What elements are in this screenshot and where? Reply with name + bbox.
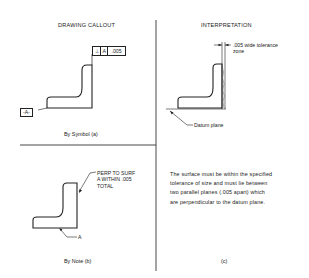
description-line-1: The surface must be within the specified bbox=[170, 170, 272, 179]
drawing-callout-title: DRAWING CALLOUT bbox=[58, 22, 115, 28]
note-line-3: TOTAL bbox=[97, 183, 135, 189]
interpretation-title: INTERPRETATION bbox=[201, 22, 252, 28]
description-line-4: are perpendicular to the datum plane. bbox=[170, 198, 272, 207]
part-outline-b bbox=[33, 183, 77, 228]
interpretation-description: The surface must be within the specified… bbox=[170, 170, 272, 207]
datum-plane-label: Datum plane bbox=[194, 122, 223, 128]
note-line-2: A WITHIN .005 bbox=[97, 176, 135, 182]
datum-feature-symbol: -A- bbox=[20, 108, 33, 117]
part-outline-c bbox=[178, 64, 222, 108]
description-line-2: tolerance of size and must lie between bbox=[170, 179, 272, 188]
fcf-tolerance: .005 bbox=[108, 47, 124, 55]
tolerance-zone-label: .005 wide tolerance zone bbox=[233, 42, 278, 55]
interpretation-caption: (c) bbox=[221, 258, 227, 264]
zone-label-line-2: zone bbox=[233, 48, 278, 54]
description-line-3: two parallel planes (.005 apart) which bbox=[170, 188, 272, 197]
perpendicularity-note: PERP TO SURF A WITHIN .005 TOTAL bbox=[97, 170, 135, 189]
note-caption: By Note (b) bbox=[64, 258, 91, 264]
symbol-caption: By Symbol (a) bbox=[64, 131, 98, 137]
fcf-datum-ref: A bbox=[101, 47, 108, 55]
perpendicularity-icon: ⊥ bbox=[93, 47, 101, 55]
part-outline-a bbox=[47, 65, 92, 108]
note-datum-label: A bbox=[78, 234, 81, 240]
feature-control-frame: ⊥ A .005 bbox=[92, 46, 126, 56]
